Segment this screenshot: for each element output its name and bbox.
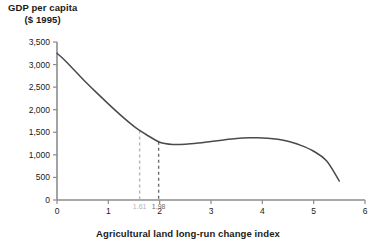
data-series-line	[57, 53, 339, 181]
y-axis-tick-label: 1,500	[29, 127, 51, 137]
chart-container: GDP per capita ($ 1995) 05001,0001,5002,…	[0, 0, 376, 248]
y-axis-tick-label: 500	[36, 172, 50, 182]
y-axis-tick-label: 3,500	[29, 37, 51, 47]
y-axis-tick-label: 2,500	[29, 82, 51, 92]
x-axis-tick-label: 0	[55, 206, 60, 216]
x-axis-tick-label: 1	[106, 206, 111, 216]
x-axis-tick-label: 6	[363, 206, 368, 216]
x-axis-title: Agricultural land long-run change index	[0, 228, 376, 239]
y-axis-tick-label: 0	[45, 195, 50, 205]
x-axis-tick-label: 5	[311, 206, 316, 216]
marker-2-label: 1.98	[152, 203, 166, 210]
x-axis-tick-label: 4	[260, 206, 265, 216]
chart-plot-area: 05001,0001,5002,0002,5003,0003,500012345…	[0, 0, 376, 248]
x-axis-tick-label: 3	[209, 206, 214, 216]
marker-1-label: 1.61	[133, 203, 147, 210]
y-axis-tick-label: 2,000	[29, 105, 51, 115]
y-axis-tick-label: 3,000	[29, 60, 51, 70]
y-axis-tick-label: 1,000	[29, 150, 51, 160]
